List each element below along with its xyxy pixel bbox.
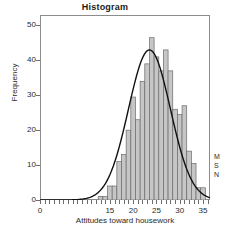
x-tick-mark (40, 200, 41, 204)
x-tick-mark (45, 200, 46, 204)
x-tick-mark (54, 200, 55, 204)
side-annotations: MSN (214, 152, 226, 179)
histogram-bar (149, 38, 154, 200)
histogram-bar (112, 186, 117, 200)
x-tick-mark (68, 200, 69, 204)
x-tick-label: 0 (30, 206, 50, 215)
x-tick-mark (147, 200, 148, 204)
histogram-bar (177, 114, 182, 200)
y-tick-mark (36, 60, 40, 61)
x-tick-mark (49, 200, 50, 204)
chart-title: Histogram (0, 2, 210, 12)
x-tick-mark (152, 200, 153, 204)
x-axis-label: Attitudes toward housework (40, 216, 210, 225)
x-tick-label: 20 (123, 206, 143, 215)
x-tick-mark (156, 200, 157, 204)
y-tick-mark (36, 25, 40, 26)
x-tick-mark (77, 200, 78, 204)
y-tick-label: 10 (14, 160, 36, 169)
histogram-bar (154, 57, 159, 200)
plot-area (40, 15, 210, 200)
histogram-bar (126, 130, 131, 200)
histogram-bar (182, 106, 187, 200)
x-tick-mark (175, 200, 176, 204)
x-tick-label: 35 (193, 206, 213, 215)
histogram-bar (131, 97, 136, 200)
x-tick-mark (133, 200, 134, 204)
x-tick-mark (198, 200, 199, 204)
x-tick-mark (128, 200, 129, 204)
x-tick-label: 15 (100, 206, 120, 215)
x-tick-mark (166, 200, 167, 204)
x-tick-mark (96, 200, 97, 204)
x-tick-mark (91, 200, 92, 204)
side-note-line: M (214, 152, 226, 161)
x-tick-mark (161, 200, 162, 204)
x-tick-mark (87, 200, 88, 204)
x-tick-mark (82, 200, 83, 204)
x-tick-mark (59, 200, 60, 204)
y-tick-mark (36, 130, 40, 131)
x-tick-mark (119, 200, 120, 204)
x-tick-mark (73, 200, 74, 204)
histogram-figure: Histogram 01020304050 01520253035 Freque… (0, 0, 226, 232)
histogram-bar (159, 71, 164, 200)
x-tick-mark (115, 200, 116, 204)
y-tick-mark (36, 95, 40, 96)
x-tick-mark (180, 200, 181, 204)
histogram-bar (140, 81, 145, 200)
x-tick-mark (189, 200, 190, 204)
plot-svg (40, 15, 210, 200)
histogram-bar (122, 155, 127, 200)
x-tick-mark (138, 200, 139, 204)
histogram-bar (163, 50, 168, 200)
x-tick-mark (194, 200, 195, 204)
side-note-line: S (214, 161, 226, 170)
histogram-bar (108, 186, 113, 200)
y-tick-label: 0 (14, 195, 36, 204)
histogram-bar (168, 71, 173, 200)
histogram-bar (117, 162, 122, 200)
side-note-line: N (214, 170, 226, 179)
x-tick-mark (203, 200, 204, 204)
x-tick-mark (170, 200, 171, 204)
histogram-bar (145, 64, 150, 200)
x-tick-mark (63, 200, 64, 204)
x-tick-mark (105, 200, 106, 204)
x-tick-label: 30 (170, 206, 190, 215)
x-tick-mark (124, 200, 125, 204)
histogram-bar (135, 120, 140, 200)
y-tick-mark (36, 165, 40, 166)
x-tick-mark (208, 200, 209, 204)
x-tick-mark (142, 200, 143, 204)
y-axis-label: Frequency (10, 23, 19, 143)
x-tick-label: 25 (146, 206, 166, 215)
x-tick-mark (101, 200, 102, 204)
x-tick-mark (110, 200, 111, 204)
x-tick-mark (184, 200, 185, 204)
